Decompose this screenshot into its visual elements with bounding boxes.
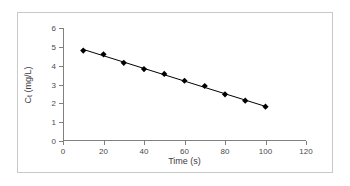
data-point-marker	[181, 78, 187, 84]
x-tick-label: 20	[99, 147, 108, 156]
x-tick	[63, 141, 64, 145]
y-tick-label: 2	[52, 99, 56, 108]
data-point-marker	[161, 71, 167, 77]
x-tick-label: 100	[259, 147, 272, 156]
data-point-marker	[141, 66, 147, 72]
figure-frame: Ct (mg/L) 0123456 020406080100120 Time (…	[17, 12, 333, 173]
x-tick-label: 40	[140, 147, 149, 156]
data-point-marker	[222, 91, 228, 97]
y-axis-title: Ct (mg/L)	[22, 28, 34, 141]
data-point-marker	[80, 48, 86, 54]
x-axis-title: Time (s)	[63, 156, 306, 166]
y-tick-label: 4	[52, 61, 56, 70]
y-axis-title-unit: (mg/L)	[23, 66, 33, 95]
chart-page: Ct (mg/L) 0123456 020406080100120 Time (…	[0, 0, 350, 186]
x-tick-label: 80	[221, 147, 230, 156]
x-tick-label: 120	[299, 147, 312, 156]
data-point-marker	[121, 60, 127, 66]
y-tick-label: 5	[52, 42, 56, 51]
x-tick	[104, 141, 105, 145]
trend-line	[83, 49, 265, 106]
x-tick	[225, 141, 226, 145]
y-tick-label: 3	[52, 80, 56, 89]
data-point-marker	[262, 104, 268, 110]
x-tick-label: 60	[180, 147, 189, 156]
x-tick	[144, 141, 145, 145]
series-plot	[63, 28, 306, 141]
plot-area: 0123456 020406080100120	[63, 28, 306, 141]
y-axis-title-main: C	[23, 96, 33, 103]
y-tick-label: 6	[52, 24, 56, 33]
data-point-marker	[242, 98, 248, 104]
y-tick-label: 1	[52, 118, 56, 127]
x-tick	[306, 141, 307, 145]
x-tick-label: 0	[61, 147, 65, 156]
x-tick	[185, 141, 186, 145]
y-tick-label: 0	[52, 137, 56, 146]
x-tick	[266, 141, 267, 145]
